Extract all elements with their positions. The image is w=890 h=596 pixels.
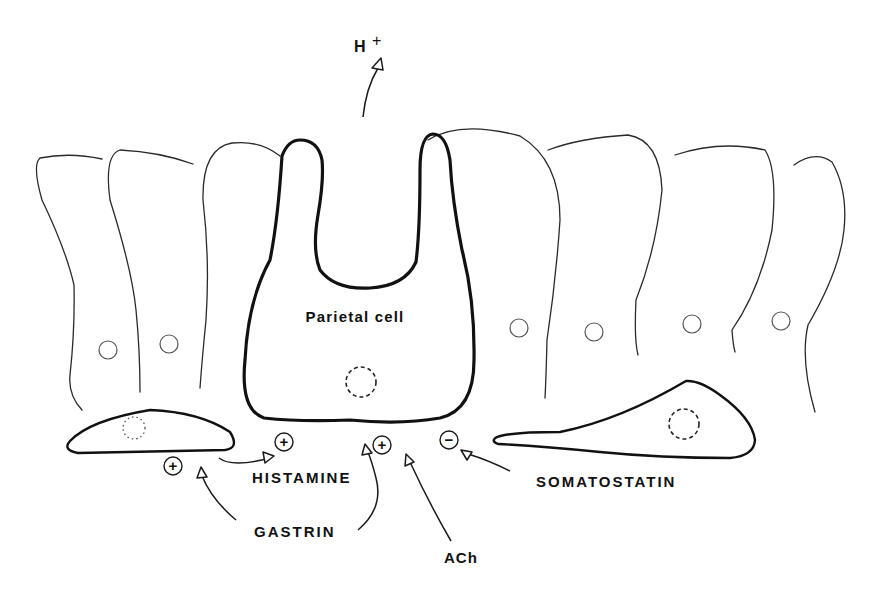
parietal-cell: Parietal cell [244, 134, 474, 422]
plus-icon: + [378, 436, 387, 453]
neighbor-cell-outline [794, 157, 845, 412]
neighbor-cell-outline [428, 129, 560, 398]
nucleus-icon [585, 323, 603, 341]
signal-labels: HISTAMINE GASTRIN ACh SOMATOSTATIN [252, 469, 676, 566]
gastrin-arrowhead-right-icon [362, 444, 372, 455]
neighbor-cell-outline [675, 146, 774, 352]
nucleus-icon [683, 315, 701, 333]
plus-sign-histamine: + [275, 433, 293, 451]
parietal-cell-diagram: H + Parietal cell [0, 0, 890, 596]
histamine-cell [67, 410, 234, 453]
nucleus-icon [160, 335, 178, 353]
ach-arrowhead-icon [405, 454, 414, 466]
ach-label: ACh [444, 549, 478, 566]
gastrin-arrow-left [202, 476, 236, 520]
minus-icon: − [445, 431, 454, 448]
histamine-cell-outline [67, 410, 234, 453]
h-label: H [354, 38, 368, 55]
gastrin-label: GASTRIN [254, 523, 336, 540]
signal-arrows [197, 444, 510, 541]
neighbor-cell-outline [36, 155, 102, 410]
h-plus-secretion: H + [354, 32, 383, 117]
somatostatin-arrowhead-icon [461, 450, 472, 460]
histamine-arrow [219, 458, 270, 463]
parietal-nucleus-icon [346, 367, 376, 397]
somatostatin-label: SOMATOSTATIN [536, 473, 676, 490]
nucleus-icon [99, 341, 117, 359]
parietal-cell-outline [244, 134, 474, 422]
histamine-arrowhead-icon [263, 452, 274, 463]
histamine-cell-nucleus-icon [123, 417, 145, 439]
nucleus-icon [510, 319, 528, 337]
somatostatin-cell [494, 381, 755, 458]
neighbor-cells [36, 129, 844, 412]
plus-icon: + [169, 457, 178, 474]
neighbor-cell-outline [548, 135, 662, 355]
minus-sign-somatostatin: − [440, 431, 458, 449]
gastrin-arrow-right [358, 452, 378, 530]
parietal-cell-label: Parietal cell [306, 308, 405, 325]
secretion-arrowhead-icon [372, 58, 383, 70]
histamine-label: HISTAMINE [252, 469, 351, 486]
plus-icon: + [280, 433, 289, 450]
somatostatin-arrow [468, 454, 510, 471]
somatostatin-cell-outline [494, 381, 755, 458]
plus-sign-gastrin-left: + [164, 457, 182, 475]
plus-sign-gastrin-right: + [373, 436, 391, 454]
h-superscript: + [372, 32, 383, 49]
neighbor-cell-outline [108, 150, 193, 392]
nucleus-icon [772, 312, 790, 330]
gastrin-arrowhead-left-icon [197, 467, 207, 478]
ach-arrow [410, 462, 451, 541]
somatostatin-cell-nucleus-icon [669, 409, 699, 439]
secretion-arrow [363, 68, 378, 117]
